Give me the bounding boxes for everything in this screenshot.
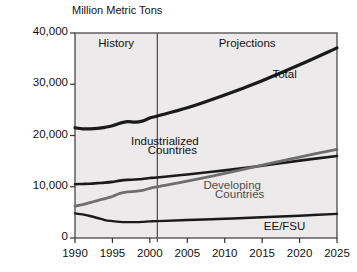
y-axis-tick-label: 40,000	[10, 25, 68, 37]
plot-background	[75, 33, 337, 238]
series-annotation-countries: Countries	[132, 144, 212, 156]
series-annotation-total: Total	[245, 68, 325, 80]
emissions-line-chart: Million Metric Tons 010,00020,00030,0004…	[0, 0, 357, 272]
x-axis-tick-label: 2025	[312, 247, 357, 259]
region-label-projections: Projections	[187, 37, 307, 49]
y-axis-tick-label: 20,000	[10, 128, 68, 140]
y-axis-tick-label: 30,000	[10, 76, 68, 88]
region-label-history: History	[56, 37, 176, 49]
series-annotation-countries: Countries	[200, 188, 280, 200]
series-annotation-ee-fsu: EE/FSU	[245, 220, 325, 232]
y-axis-tick-label: 0	[10, 230, 68, 242]
y-axis-tick-label: 10,000	[10, 179, 68, 191]
